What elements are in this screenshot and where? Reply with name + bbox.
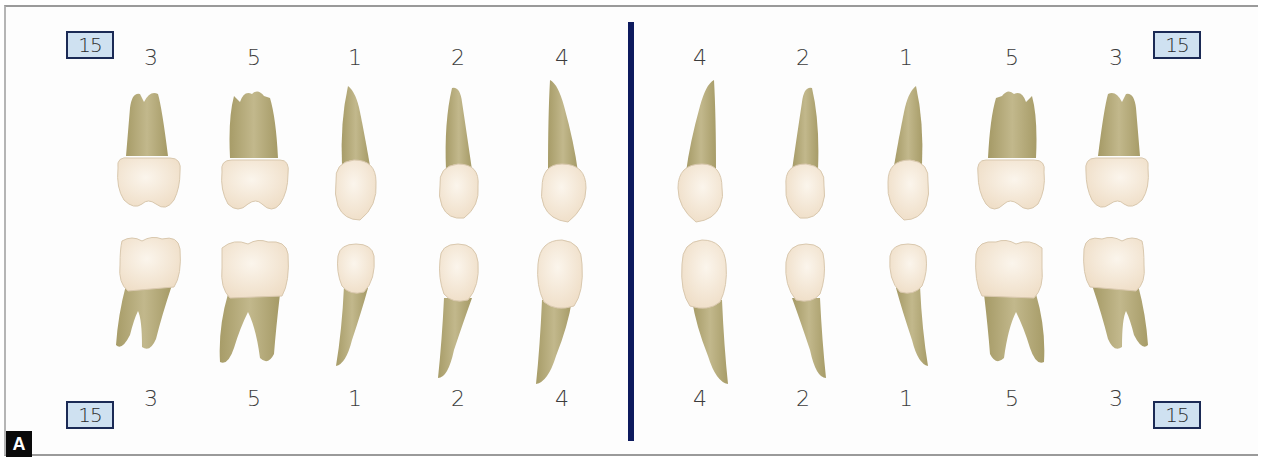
bottom-label: 5 — [234, 386, 274, 411]
panel-label: A — [6, 431, 32, 457]
lower-premolar-icon — [332, 240, 380, 372]
badge-top-left: 15 — [66, 31, 114, 59]
upper-molar-icon — [112, 88, 184, 218]
top-label: 4 — [680, 45, 720, 70]
lower-molar-icon — [112, 235, 184, 355]
upper-molar-icon — [1082, 88, 1154, 218]
lower-premolar-icon — [884, 240, 932, 372]
top-label: 5 — [992, 45, 1032, 70]
top-label: 5 — [234, 45, 274, 70]
lower-molar-icon — [216, 238, 292, 368]
upper-premolar-icon — [330, 82, 382, 224]
midline-divider — [628, 22, 634, 441]
bottom-label: 3 — [1096, 386, 1136, 411]
bottom-label: 4 — [680, 386, 720, 411]
bottom-label: 1 — [886, 386, 926, 411]
top-label: 3 — [131, 45, 171, 70]
bottom-label: 4 — [542, 386, 582, 411]
top-label: 4 — [542, 45, 582, 70]
top-label: 1 — [335, 45, 375, 70]
lower-molar-icon — [972, 238, 1048, 368]
badge-top-right: 15 — [1153, 31, 1201, 59]
lower-canine-icon — [534, 236, 590, 386]
bottom-label: 5 — [992, 386, 1032, 411]
upper-premolar-icon — [434, 82, 486, 224]
lower-premolar-icon — [778, 240, 830, 382]
bottom-label: 3 — [131, 386, 171, 411]
lower-canine-icon — [674, 236, 730, 386]
upper-premolar-icon — [882, 82, 934, 224]
bottom-label: 2 — [783, 386, 823, 411]
top-label: 2 — [438, 45, 478, 70]
lower-premolar-icon — [434, 240, 486, 382]
top-label: 1 — [886, 45, 926, 70]
top-label: 3 — [1096, 45, 1136, 70]
bottom-label: 1 — [335, 386, 375, 411]
upper-premolar-icon — [778, 82, 830, 224]
upper-molar-icon — [974, 88, 1048, 218]
badge-bottom-left: 15 — [66, 401, 114, 429]
upper-canine-icon — [536, 76, 592, 226]
upper-canine-icon — [672, 76, 728, 226]
badge-bottom-right: 15 — [1153, 401, 1201, 429]
upper-molar-icon — [218, 88, 292, 218]
top-label: 2 — [783, 45, 823, 70]
lower-molar-icon — [1080, 235, 1152, 355]
bottom-label: 2 — [438, 386, 478, 411]
